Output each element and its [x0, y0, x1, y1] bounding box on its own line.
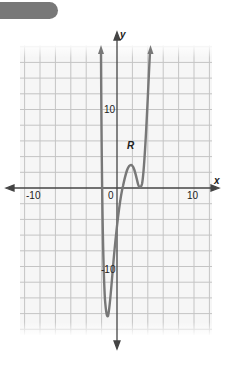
y-tick-label-10: 10 [104, 104, 116, 115]
y-axis-label: y [119, 29, 126, 40]
coordinate-graph: -10 0 10 10 -10 x y R [0, 0, 230, 369]
y-tick-label-neg10: -10 [101, 264, 116, 275]
x-axis-label: x [213, 175, 220, 186]
x-tick-label-10: 10 [187, 190, 199, 201]
y-axis-down-arrow-icon [114, 341, 120, 349]
grid-background [20, 45, 212, 335]
x-tick-label-0: 0 [108, 190, 114, 201]
x-tick-label-neg10: -10 [26, 190, 41, 201]
point-label-r: R [127, 140, 135, 151]
x-axis-left-arrow-icon [6, 185, 14, 191]
